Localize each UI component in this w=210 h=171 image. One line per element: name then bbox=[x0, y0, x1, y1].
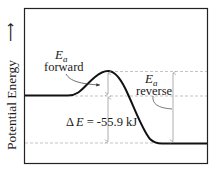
ea-reverse-word: reverse bbox=[136, 84, 173, 98]
delta-e-label: ΔE= -55.9 kJ bbox=[66, 115, 137, 129]
ea-forward-word: forward bbox=[44, 60, 84, 74]
ea-forward-leader bbox=[66, 74, 100, 85]
energy-diagram: Potential Energy ⟶ Ea forward Ea reverse… bbox=[0, 0, 210, 171]
plot-frame bbox=[25, 9, 208, 164]
energy-curve bbox=[25, 71, 207, 144]
up-arrow-icon: ⟶ bbox=[2, 23, 18, 42]
y-axis-label: Potential Energy bbox=[4, 60, 19, 150]
